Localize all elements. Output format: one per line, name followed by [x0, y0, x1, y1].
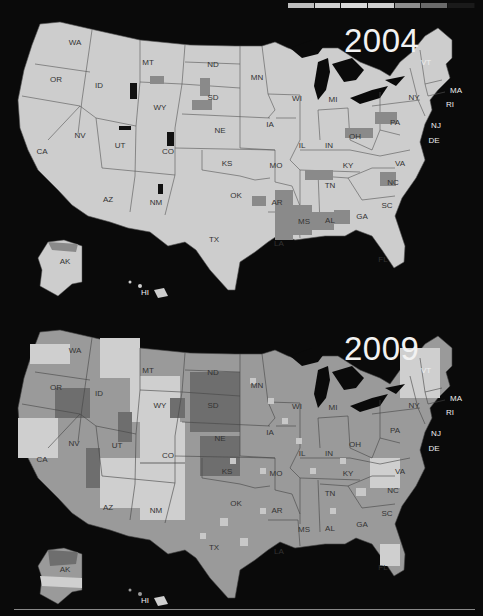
svg-text:MA: MA [450, 86, 463, 95]
svg-text:CA: CA [36, 147, 48, 156]
svg-text:SD: SD [207, 93, 218, 102]
svg-text:WY: WY [154, 103, 168, 112]
svg-text:OR: OR [50, 75, 62, 84]
svg-text:MI: MI [329, 403, 338, 412]
svg-text:NM: NM [150, 198, 163, 207]
svg-text:AR: AR [271, 506, 282, 515]
svg-text:WI: WI [292, 402, 302, 411]
svg-text:MS: MS [298, 525, 310, 534]
svg-text:PA: PA [390, 426, 401, 435]
svg-text:MN: MN [251, 73, 264, 82]
svg-text:MN: MN [251, 381, 264, 390]
svg-text:KS: KS [222, 159, 233, 168]
svg-text:OK: OK [230, 499, 242, 508]
svg-text:OK: OK [230, 191, 242, 200]
svg-text:IA: IA [266, 428, 274, 437]
svg-text:MO: MO [270, 469, 283, 478]
svg-text:MI: MI [329, 95, 338, 104]
svg-text:FL: FL [378, 255, 388, 264]
svg-text:PA: PA [390, 118, 401, 127]
svg-text:MT: MT [142, 366, 154, 375]
svg-text:CO: CO [162, 147, 174, 156]
svg-text:SC: SC [381, 201, 392, 210]
svg-text:NE: NE [214, 126, 225, 135]
svg-text:MT: MT [142, 58, 154, 67]
svg-text:AK: AK [60, 565, 71, 574]
svg-text:NE: NE [214, 434, 225, 443]
svg-text:IA: IA [266, 120, 274, 129]
svg-text:UT: UT [115, 141, 126, 150]
svg-text:IN: IN [325, 141, 333, 150]
svg-text:CA: CA [36, 455, 48, 464]
svg-text:CO: CO [162, 451, 174, 460]
svg-text:ID: ID [95, 389, 103, 398]
svg-text:VT: VT [421, 58, 431, 67]
svg-text:VT: VT [421, 366, 431, 375]
svg-text:NC: NC [387, 178, 399, 187]
svg-text:IL: IL [299, 449, 306, 458]
svg-text:WI: WI [292, 94, 302, 103]
svg-text:UT: UT [112, 441, 123, 450]
svg-text:IL: IL [299, 141, 306, 150]
svg-text:NJ: NJ [431, 429, 441, 438]
svg-text:AL: AL [325, 216, 335, 225]
svg-text:TN: TN [325, 181, 336, 190]
svg-text:ND: ND [207, 368, 219, 377]
map-2004: WAORCA IDNVMT WYUTAZ CONMND SDNEKS OKTXM… [0, 0, 483, 308]
svg-text:NV: NV [68, 439, 80, 448]
svg-text:MO: MO [270, 161, 283, 170]
svg-text:DE: DE [428, 136, 439, 145]
svg-text:AK: AK [60, 257, 71, 266]
svg-text:FL: FL [378, 563, 388, 572]
svg-text:OH: OH [349, 440, 361, 449]
svg-text:AR: AR [271, 198, 282, 207]
svg-text:LA: LA [274, 239, 284, 248]
year-label-2009: 2009 [344, 330, 419, 368]
svg-text:VA: VA [395, 467, 406, 476]
svg-text:AZ: AZ [103, 195, 113, 204]
svg-text:AZ: AZ [103, 503, 113, 512]
svg-text:SD: SD [207, 401, 218, 410]
svg-text:DE: DE [428, 444, 439, 453]
svg-text:KS: KS [222, 467, 233, 476]
svg-text:NM: NM [150, 506, 163, 515]
svg-text:NY: NY [408, 93, 420, 102]
svg-text:KY: KY [343, 469, 354, 478]
svg-text:AL: AL [325, 524, 335, 533]
svg-text:LA: LA [274, 547, 284, 556]
svg-text:WA: WA [69, 38, 82, 47]
svg-text:NJ: NJ [431, 121, 441, 130]
svg-text:GA: GA [356, 212, 368, 221]
year-label-2004: 2004 [344, 22, 419, 60]
svg-text:MA: MA [450, 394, 463, 403]
svg-text:GA: GA [356, 520, 368, 529]
svg-text:ID: ID [95, 81, 103, 90]
svg-text:NC: NC [387, 486, 399, 495]
svg-text:WA: WA [69, 346, 82, 355]
svg-text:TN: TN [325, 489, 336, 498]
svg-text:TX: TX [209, 543, 220, 552]
svg-text:VA: VA [395, 159, 406, 168]
svg-text:IN: IN [325, 449, 333, 458]
svg-text:WY: WY [154, 401, 168, 410]
svg-text:OR: OR [50, 383, 62, 392]
svg-text:MS: MS [298, 217, 310, 226]
svg-text:HI: HI [141, 288, 149, 297]
bottom-rule [14, 609, 475, 610]
svg-text:RI: RI [446, 100, 454, 109]
svg-text:HI: HI [141, 596, 149, 605]
map-2009: WAORCA IDNVMT WYUTAZ CONMND SDNEKS OKTXM… [0, 308, 483, 616]
svg-text:NV: NV [74, 131, 86, 140]
svg-text:NY: NY [408, 401, 420, 410]
svg-text:SC: SC [381, 509, 392, 518]
svg-text:RI: RI [446, 408, 454, 417]
svg-text:KY: KY [343, 161, 354, 170]
svg-text:ND: ND [207, 60, 219, 69]
svg-text:TX: TX [209, 235, 220, 244]
svg-text:OH: OH [349, 132, 361, 141]
